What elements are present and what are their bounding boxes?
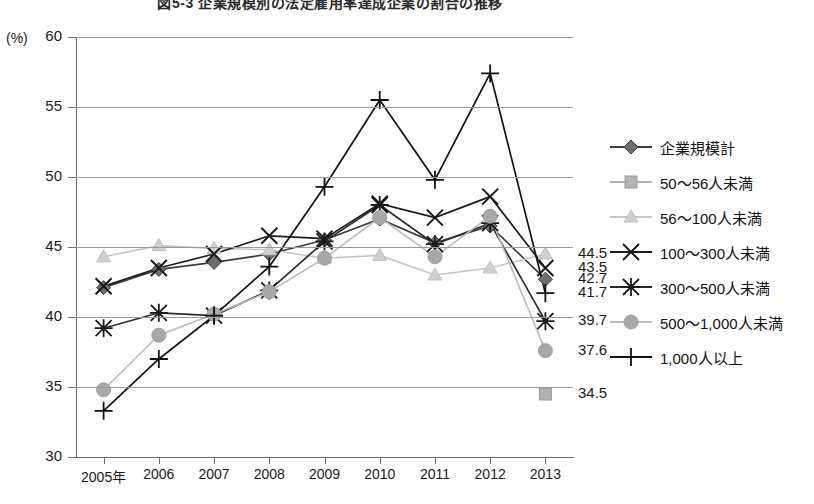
- x-axis-tick: [269, 457, 270, 464]
- chart-container: 図5-3 企業規模別の法定雇用率達成企業の割合の推移 (%) 303540455…: [0, 0, 814, 504]
- legend-marker-triangle-icon: [608, 206, 654, 228]
- y-axis-tick: [68, 317, 76, 318]
- marker-diamond: [624, 140, 638, 154]
- y-axis-tick: [68, 247, 76, 248]
- legend-label: 50～56人未満: [660, 172, 753, 193]
- x-axis-label: 2010: [364, 466, 395, 482]
- marker-circle: [373, 211, 387, 225]
- marker-asterisk: [536, 312, 554, 330]
- marker-circle: [152, 328, 166, 342]
- y-axis-tick: [68, 107, 76, 108]
- legend-marker-plus-icon: [608, 346, 654, 368]
- legend-label: 1,000人以上: [660, 347, 743, 368]
- marker-x: [427, 210, 443, 226]
- legend-item-3[interactable]: 100～300人未満: [608, 237, 814, 267]
- legend-label: 100～300人未満: [660, 242, 770, 263]
- legend-marker-circle-icon: [608, 311, 654, 333]
- x-axis-label: 2011: [420, 466, 450, 482]
- x-axis-tick: [380, 457, 381, 464]
- y-axis-label: 45: [22, 237, 62, 254]
- legend-item-2[interactable]: 56～100人未満: [608, 202, 814, 232]
- marker-circle: [538, 344, 552, 358]
- legend-label: 500～1,000人未満: [660, 312, 783, 333]
- marker-asterisk: [95, 319, 113, 337]
- marker-circle: [624, 315, 638, 329]
- legend-item-0[interactable]: 企業規模計: [608, 132, 814, 162]
- legend-marker-square-icon: [608, 171, 654, 193]
- marker-square: [625, 176, 637, 188]
- legend-label: 56～100人未満: [660, 207, 762, 228]
- x-axis-label: 2009: [309, 466, 340, 482]
- marker-plus: [426, 171, 444, 189]
- marker-circle: [318, 251, 332, 265]
- legend-item-5[interactable]: 500～1,000人未満: [608, 307, 814, 337]
- marker-circle: [262, 285, 276, 299]
- marker-triangle: [262, 243, 276, 255]
- x-axis-tick: [159, 457, 160, 464]
- y-axis-tick: [68, 457, 76, 458]
- marker-circle: [428, 250, 442, 264]
- marker-circle: [483, 209, 497, 223]
- x-axis-label: 2012: [475, 466, 506, 482]
- series-end-value-label: 41.7: [578, 283, 607, 300]
- x-axis-label: 2013: [530, 466, 561, 482]
- legend-item-6[interactable]: 1,000人以上: [608, 342, 814, 372]
- legend-marker-diamond-icon: [608, 136, 654, 158]
- gridline: [76, 37, 573, 38]
- marker-x: [482, 189, 498, 205]
- x-axis-label: 2006: [143, 466, 174, 482]
- y-axis-label: 40: [22, 307, 62, 324]
- gridline: [76, 317, 573, 318]
- x-axis-label: 2005年: [81, 466, 126, 486]
- marker-asterisk: [150, 304, 168, 322]
- chart-legend: 企業規模計50～56人未満56～100人未満100～300人未満300～500人…: [608, 132, 814, 377]
- y-axis-label: 55: [22, 97, 62, 114]
- y-axis-tick: [68, 387, 76, 388]
- x-axis-tick: [214, 457, 215, 464]
- legend-label: 300～500人未満: [660, 277, 770, 298]
- y-axis-tick: [68, 177, 76, 178]
- y-axis-tick: [68, 37, 76, 38]
- legend-marker-asterisk-icon: [608, 276, 654, 298]
- y-axis-label: 60: [22, 27, 62, 44]
- gridline: [76, 177, 573, 178]
- x-axis-tick: [545, 457, 546, 464]
- marker-plus: [536, 284, 554, 302]
- series-end-value-label: 34.5: [578, 384, 607, 401]
- marker-plus: [316, 178, 334, 196]
- legend-label: 企業規模計: [660, 137, 735, 158]
- marker-square: [539, 388, 551, 400]
- marker-triangle: [152, 239, 166, 251]
- gridline: [76, 107, 573, 108]
- y-axis-label: 35: [22, 377, 62, 394]
- series-end-value-label: 39.7: [578, 311, 607, 328]
- x-axis-tick: [104, 457, 105, 464]
- marker-triangle: [538, 247, 552, 259]
- y-axis-label: 50: [22, 167, 62, 184]
- plot-area: [76, 37, 573, 457]
- marker-triangle: [373, 248, 387, 260]
- legend-marker-x-icon: [608, 241, 654, 263]
- marker-plus: [622, 348, 640, 366]
- legend-item-4[interactable]: 300～500人未満: [608, 272, 814, 302]
- marker-asterisk: [622, 278, 640, 296]
- x-axis-tick: [490, 457, 491, 464]
- x-axis-tick: [435, 457, 436, 464]
- y-axis-label: 30: [22, 447, 62, 464]
- x-axis-tick: [325, 457, 326, 464]
- marker-plus: [481, 64, 499, 82]
- marker-circle: [97, 383, 111, 397]
- gridline: [76, 387, 573, 388]
- legend-item-1[interactable]: 50～56人未満: [608, 167, 814, 197]
- gridline: [76, 247, 573, 248]
- series-end-value-label: 37.6: [578, 341, 607, 358]
- x-axis-label: 2008: [254, 466, 285, 482]
- chart-title: 図5-3 企業規模別の法定雇用率達成企業の割合の推移: [0, 0, 660, 12]
- x-axis-label: 2007: [198, 466, 229, 482]
